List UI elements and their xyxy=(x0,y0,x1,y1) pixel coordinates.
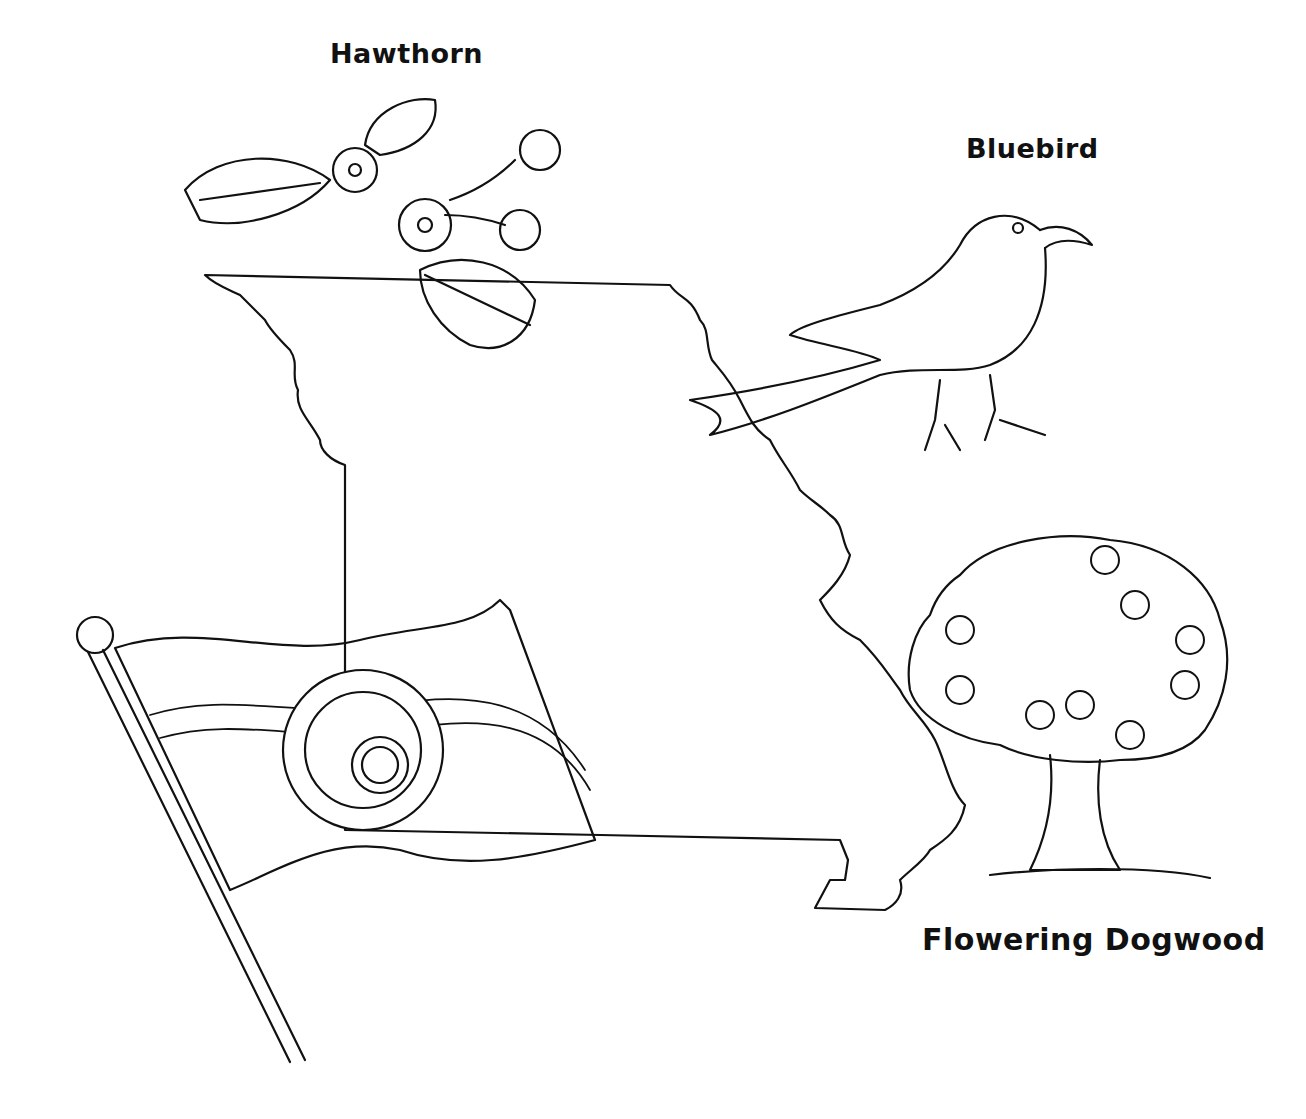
hawthorn-label: Hawthorn xyxy=(330,38,483,69)
flowering-dogwood-label: Flowering Dogwood xyxy=(922,922,1266,957)
state-flag-illustration xyxy=(77,600,595,1062)
bluebird-illustration xyxy=(690,216,1092,450)
bluebird-label: Bluebird xyxy=(966,133,1099,164)
hawthorn-illustration xyxy=(185,99,560,348)
